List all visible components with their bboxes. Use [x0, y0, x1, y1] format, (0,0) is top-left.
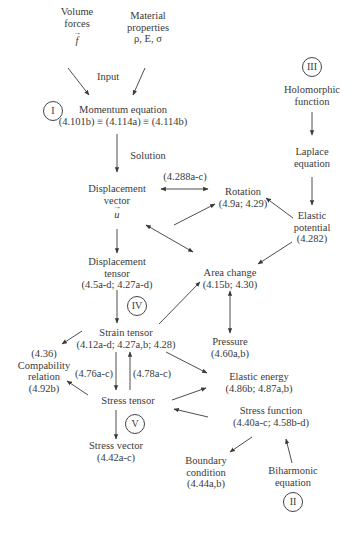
- node-text: (4.282): [294, 233, 331, 245]
- node-momentum-equation: Momentum equation (4.101b) ≡ (4.114a) ≡ …: [59, 104, 188, 127]
- arrow-potential-to-area: [258, 242, 292, 264]
- node-area-change: Area change (4.15b; 4.30): [203, 267, 258, 290]
- node-boundary-condition: Boundary condition (4.44a,b): [185, 455, 226, 490]
- circle-marker-III: III: [302, 57, 322, 77]
- node-displacement-tensor: Displacement tensor (4.5a-d; 4.27a-d): [82, 256, 153, 291]
- node-text: (4.12a-d; 4.27a,b; 4.28): [76, 339, 175, 351]
- node-biharmonic-equation: Biharmonic equation: [268, 465, 318, 488]
- node-text: Elastic: [294, 210, 331, 222]
- node-text: (4.86b; 4.87a,b): [225, 383, 292, 395]
- node-elastic-potential: Elastic potential (4.282): [294, 210, 331, 245]
- node-text: ρ, E, σ: [127, 33, 169, 45]
- node-text: (4.60a,b): [211, 348, 249, 360]
- node-material-properties: Material properties ρ, E, σ: [127, 10, 169, 45]
- arrow-displacement-area: [146, 225, 193, 252]
- node-text: (4.40a-c; 4.58b-d): [233, 417, 309, 429]
- arrow-stress-to-energy: [172, 388, 206, 400]
- node-text: Displacement: [82, 256, 153, 268]
- arrow-strain-to-energy: [166, 352, 207, 373]
- node-elastic-energy: Elastic energy (4.86b; 4.87a,b): [225, 371, 292, 394]
- node-text: (4.92b): [18, 383, 71, 395]
- arrow-function-to-boundary: [230, 437, 252, 452]
- node-text: (4.44a,b): [185, 478, 226, 490]
- node-laplace-equation: Laplace equation: [294, 146, 330, 169]
- node-stress-tensor: Stress tensor: [101, 395, 154, 407]
- node-text: Stress function: [233, 405, 309, 417]
- node-stress-function: Stress function (4.40a-c; 4.58b-d): [233, 405, 309, 428]
- circle-marker-IV: IV: [127, 296, 147, 316]
- input-label: Input: [97, 71, 119, 83]
- node-text: Biharmonic: [268, 465, 318, 477]
- node-text: (4.42a-c): [89, 452, 143, 464]
- node-text: Boundary: [185, 455, 226, 467]
- node-text: equation: [268, 477, 318, 489]
- arrow-to-rotation: [174, 204, 215, 225]
- circle-marker-II: II: [283, 492, 303, 512]
- node-text: properties: [127, 22, 169, 34]
- node-text: Volume: [61, 6, 93, 18]
- node-text: (4.36): [18, 348, 71, 360]
- vector-f-symbol: f: [76, 35, 79, 47]
- node-text: Displacement: [88, 183, 146, 195]
- node-text: Material: [127, 10, 169, 22]
- arrow-strain-to-area: [159, 282, 200, 324]
- node-strain-tensor: Strain tensor (4.12a-d; 4.27a,b; 4.28): [76, 327, 175, 350]
- arrow-volume-to-momentum: [68, 68, 89, 95]
- arrow-material-to-momentum: [133, 68, 145, 95]
- node-text: Strain tensor: [76, 327, 175, 339]
- arrow-potential-to-rotation: [266, 198, 293, 218]
- node-text: function: [284, 96, 340, 108]
- strain-to-stress-label: (4.76a-c): [75, 368, 113, 380]
- node-text: (4.9a; 4.29): [219, 198, 268, 210]
- node-text: potential: [294, 222, 331, 234]
- rotation-link-label: (4.288a-c): [163, 171, 206, 183]
- node-text: Stress vector: [89, 440, 143, 452]
- node-text: Momentum equation: [59, 104, 188, 116]
- node-text: (4.101b) ≡ (4.114a) ≡ (4.114b): [59, 116, 188, 128]
- stress-to-strain-label: (4.78a-c): [133, 368, 171, 380]
- node-text: Laplace: [294, 146, 330, 158]
- arrows-layer: [0, 0, 356, 536]
- node-pressure: Pressure (4.60a,b): [211, 336, 249, 359]
- node-text: equation: [294, 158, 330, 170]
- arrow-biharmonic-to-function: [286, 439, 292, 463]
- node-text: Pressure: [211, 336, 249, 348]
- node-text: Stress tensor: [101, 395, 154, 407]
- circle-marker-V: V: [125, 414, 145, 434]
- solution-label: Solution: [130, 150, 166, 162]
- node-text: relation: [18, 371, 71, 383]
- node-text: Holomorphic: [284, 84, 340, 96]
- arrow-function-to-stress: [174, 409, 208, 417]
- node-text: (4.15b; 4.30): [203, 279, 258, 291]
- node-text: Elastic energy: [225, 371, 292, 383]
- node-text: (4.5a-d; 4.27a-d): [82, 279, 153, 291]
- node-rotation: Rotation (4.9a; 4.29): [219, 186, 268, 209]
- node-stress-vector: Stress vector (4.42a-c): [89, 440, 143, 463]
- vector-u-symbol: u: [114, 209, 119, 221]
- node-volume-forces: Volume forces f: [61, 6, 93, 47]
- node-text: Area change: [203, 267, 258, 279]
- node-text: tensor: [82, 268, 153, 280]
- node-holomorphic-function: Holomorphic function: [284, 84, 340, 107]
- node-displacement-vector: Displacement vector u: [88, 183, 146, 221]
- node-text: Rotation: [219, 186, 268, 198]
- node-compatibility-relation: (4.36) Compability relation (4.92b): [18, 348, 71, 394]
- node-text: condition: [185, 467, 226, 479]
- node-text: Compability: [18, 360, 71, 372]
